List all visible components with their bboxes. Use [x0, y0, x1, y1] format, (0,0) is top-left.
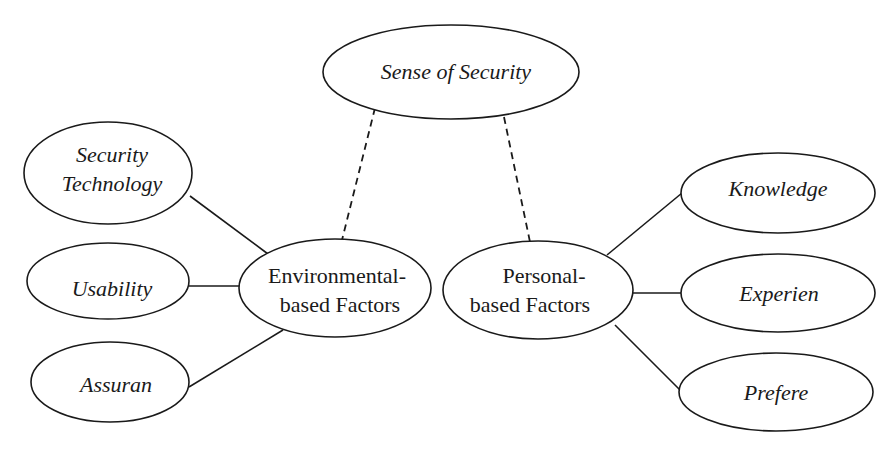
node-usability: Usability [27, 243, 189, 319]
node-experience: Experien [681, 254, 875, 332]
edge-security-technology-to-environmental [190, 196, 268, 254]
label-usability: Usability [72, 276, 153, 301]
label-knowledge: Knowledge [728, 176, 828, 201]
label-environmental-line2: based Factors [280, 292, 400, 317]
node-environmental-based-factors: Environmental- based Factors [239, 239, 431, 337]
label-assurance: Assuran [78, 372, 152, 397]
label-security-technology-line1: Security [76, 142, 148, 167]
ellipse-environmental-based-factors [239, 239, 431, 337]
node-sense-of-security: Sense of Security [323, 25, 579, 119]
edge-assurance-to-environmental [189, 330, 283, 387]
label-environmental-line1: Environmental- [268, 263, 406, 288]
node-preference: Prefere [679, 353, 873, 431]
node-knowledge: Knowledge [681, 153, 875, 233]
edge-preference-to-personal [615, 325, 681, 391]
label-experience: Experien [738, 281, 818, 306]
edge-sense-to-environmental [342, 108, 375, 240]
node-security-technology: Security Technology [24, 122, 192, 224]
node-assurance: Assuran [31, 342, 189, 422]
label-sense-of-security: Sense of Security [381, 59, 532, 84]
label-personal-line1: Personal- [502, 263, 585, 288]
label-preference: Prefere [743, 380, 809, 405]
ellipse-personal-based-factors [443, 241, 633, 339]
edges [189, 108, 682, 391]
edge-knowledge-to-personal [607, 193, 682, 255]
edge-sense-to-personal [504, 117, 530, 242]
label-security-technology-line2: Technology [62, 171, 163, 196]
label-personal-line2: based Factors [470, 292, 590, 317]
node-personal-based-factors: Personal- based Factors [443, 241, 633, 339]
sense-of-security-diagram: Sense of Security Security Technology Us… [0, 0, 894, 456]
